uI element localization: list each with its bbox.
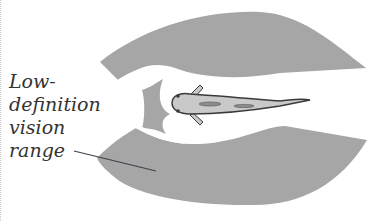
label-line-1: Low-: [9, 70, 101, 93]
vision-range-diagram: Low- definition vision range: [0, 0, 388, 221]
vision-range-label: Low- definition vision range: [9, 70, 101, 162]
label-line-2: definition: [9, 93, 101, 116]
lower-vision-sector: [97, 126, 367, 205]
label-line-4: range: [9, 139, 101, 162]
front-vision-region: [142, 79, 170, 134]
fish-icon: [172, 85, 310, 125]
label-line-3: vision: [9, 116, 101, 139]
